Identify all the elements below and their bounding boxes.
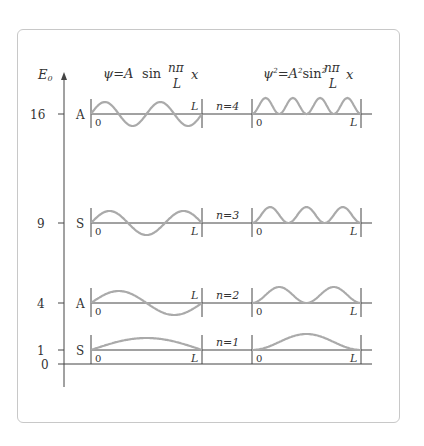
zero-label: 0	[41, 358, 49, 372]
level-n1-n-label: n=1	[216, 336, 239, 349]
level-n3-psi-L: L	[190, 225, 198, 238]
level-n1-psi-L: L	[190, 352, 198, 365]
level-n2-psi2-L: L	[349, 305, 357, 318]
level-n2-energy-label: 4	[37, 297, 45, 311]
level-n3-n-label: n=3	[216, 209, 239, 222]
level-n1-psi2-zero: 0	[256, 353, 262, 364]
level-n3-psi-zero: 0	[95, 226, 101, 237]
level-n3-psi2-curve	[252, 207, 361, 223]
psi-header-sin: sin	[142, 66, 162, 81]
level-n3-parity-label: S	[76, 217, 84, 231]
psi2-header-x: x	[346, 67, 354, 82]
axis-label: E0	[37, 67, 53, 83]
level-n4-energy-label: 16	[30, 108, 45, 122]
psi-header-den: L	[172, 77, 181, 91]
level-n1-psi-zero: 0	[95, 353, 101, 364]
psi-header-x: x	[191, 67, 199, 82]
particle-in-box-diagram: E00ψ=AsinnπLxψ2=A2sin2nπLx16A0L0Ln=49S0L…	[0, 0, 424, 446]
level-n1-psi-curve	[91, 338, 202, 350]
level-n1-energy-label: 1	[37, 344, 45, 358]
level-n4-psi-L: L	[190, 100, 198, 113]
psi2-header-num: nπ	[324, 61, 341, 75]
psi2-header-den: L	[328, 77, 337, 91]
level-n2-psi-zero: 0	[95, 306, 101, 317]
level-n1-psi2-curve	[252, 334, 361, 350]
level-n2-psi2-curve	[252, 287, 361, 303]
axis-arrow-icon	[61, 72, 67, 80]
level-n4-psi-zero: 0	[95, 117, 101, 128]
level-n4-psi2-zero: 0	[256, 117, 262, 128]
psi-header-num: nπ	[168, 61, 185, 75]
level-n3-psi2-zero: 0	[256, 226, 262, 237]
level-n4-n-label: n=4	[216, 100, 239, 113]
level-n2-psi2-zero: 0	[256, 306, 262, 317]
level-n3-energy-label: 9	[37, 217, 45, 231]
level-n2-psi-L: L	[190, 289, 198, 302]
psi2-header-lhs: ψ2=A2sin2	[263, 66, 327, 81]
level-n2-parity-label: A	[75, 297, 85, 311]
level-n3-psi2-L: L	[349, 225, 357, 238]
level-n1-parity-label: S	[76, 344, 84, 358]
level-n4-psi2-L: L	[349, 116, 357, 129]
level-n2-n-label: n=2	[216, 289, 239, 302]
level-n4-parity-label: A	[75, 108, 85, 122]
level-n1-psi2-L: L	[349, 352, 357, 365]
level-n4-psi2-curve	[252, 98, 361, 114]
psi-header-lhs: ψ=A	[103, 66, 133, 81]
